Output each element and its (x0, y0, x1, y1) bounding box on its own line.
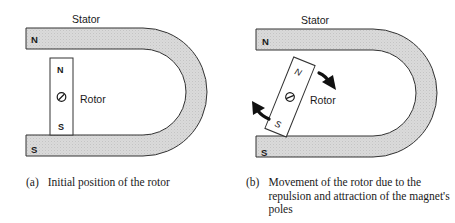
rotor: N S (265, 57, 315, 137)
caption-b: (b) Movement of the rotor due to the rep… (246, 176, 451, 217)
clockwise-arrow-top-right-icon (319, 73, 336, 90)
rotor-label: Rotor (80, 93, 106, 105)
rotor-label: Rotor (310, 94, 336, 106)
panel-b: Stator N S N S Rotor (252, 14, 437, 158)
caption-b-tag: (b) (246, 176, 259, 217)
caption-b-text: Movement of the rotor due to the repulsi… (268, 176, 451, 217)
stator-label: Stator (72, 13, 101, 25)
stator-north-pole-label: N (31, 34, 38, 45)
clockwise-arrow-bottom-left-icon (252, 101, 269, 119)
rotor-north-pole-label: N (57, 65, 64, 75)
caption-a-text: Initial position of the rotor (48, 176, 170, 190)
caption-a: (a) Initial position of the rotor (26, 176, 226, 190)
panel-a: Stator N S N S Rotor (26, 13, 207, 156)
stator-north-pole-label: N (262, 36, 269, 47)
stator-south-pole-label: S (31, 144, 37, 155)
stator-label: Stator (301, 14, 330, 26)
rotor-south-pole-label: S (58, 122, 64, 132)
caption-a-tag: (a) (26, 176, 39, 190)
stator-south-pole-label: S (261, 147, 267, 158)
rotor: N S (50, 58, 73, 135)
